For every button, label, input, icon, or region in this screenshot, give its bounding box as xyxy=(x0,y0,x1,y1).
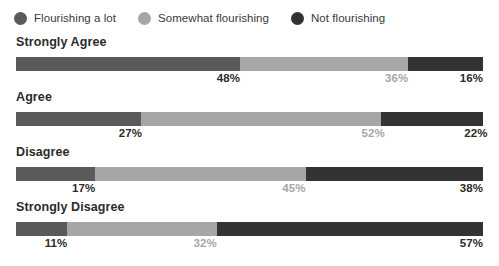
chart-row-label: Disagree xyxy=(16,145,70,159)
chart-value-label: 45% xyxy=(282,182,305,194)
chart-bar-segment xyxy=(16,167,95,181)
chart-row-label: Strongly Agree xyxy=(16,35,107,49)
chart-legend: Flourishing a lot Somewhat flourishing N… xyxy=(14,9,407,27)
legend-dot-icon xyxy=(138,12,151,25)
chart-value-label: 52% xyxy=(362,127,385,139)
chart-row-values: 48%36%16% xyxy=(16,72,483,87)
chart-value-label: 38% xyxy=(460,182,483,194)
legend-item-flourishing-a-lot: Flourishing a lot xyxy=(14,12,116,25)
chart-row-values: 11%32%57% xyxy=(16,237,483,252)
chart-value-label: 22% xyxy=(464,127,487,139)
legend-dot-icon xyxy=(291,12,304,25)
legend-item-not-flourishing: Not flourishing xyxy=(291,12,385,25)
chart-bar-segment xyxy=(240,57,408,71)
chart-row-values: 17%45%38% xyxy=(16,182,483,197)
chart-value-label: 17% xyxy=(72,182,95,194)
stacked-bar-chart: Strongly Agree 48%36%16% Agree 27%52%22%… xyxy=(0,31,499,251)
legend-item-label: Somewhat flourishing xyxy=(158,12,269,24)
chart-row-label: Strongly Disagree xyxy=(16,200,125,214)
chart-row: Strongly Disagree 11%32%57% xyxy=(0,196,499,251)
chart-row-values: 27%52%22% xyxy=(16,127,483,142)
chart-bar-segment xyxy=(67,222,216,236)
chart-bar-segment xyxy=(381,112,483,126)
chart-row: Agree 27%52%22% xyxy=(0,86,499,141)
chart-row: Strongly Agree 48%36%16% xyxy=(0,31,499,86)
chart-bar-segment xyxy=(306,167,483,181)
chart-bar-segment xyxy=(16,57,240,71)
chart-bar-segment xyxy=(141,112,381,126)
chart-value-label: 32% xyxy=(193,237,216,249)
chart-row-bar xyxy=(16,222,483,236)
chart-row: Disagree 17%45%38% xyxy=(0,141,499,196)
chart-bar-segment xyxy=(16,222,67,236)
chart-value-label: 16% xyxy=(460,72,483,84)
chart-value-label: 48% xyxy=(217,72,240,84)
chart-row-label: Agree xyxy=(16,90,52,104)
legend-item-label: Not flourishing xyxy=(311,12,385,24)
chart-value-label: 11% xyxy=(45,237,68,249)
chart-bar-segment xyxy=(16,112,141,126)
chart-row-bar xyxy=(16,112,483,126)
legend-item-somewhat-flourishing: Somewhat flourishing xyxy=(138,12,269,25)
chart-bar-segment xyxy=(217,222,483,236)
chart-value-label: 27% xyxy=(119,127,142,139)
chart-row-bar xyxy=(16,167,483,181)
legend-item-label: Flourishing a lot xyxy=(34,12,116,24)
chart-bar-segment xyxy=(95,167,305,181)
chart-value-label: 57% xyxy=(460,237,483,249)
chart-value-label: 36% xyxy=(385,72,408,84)
legend-dot-icon xyxy=(14,12,27,25)
chart-row-bar xyxy=(16,57,483,71)
chart-bar-segment xyxy=(408,57,483,71)
